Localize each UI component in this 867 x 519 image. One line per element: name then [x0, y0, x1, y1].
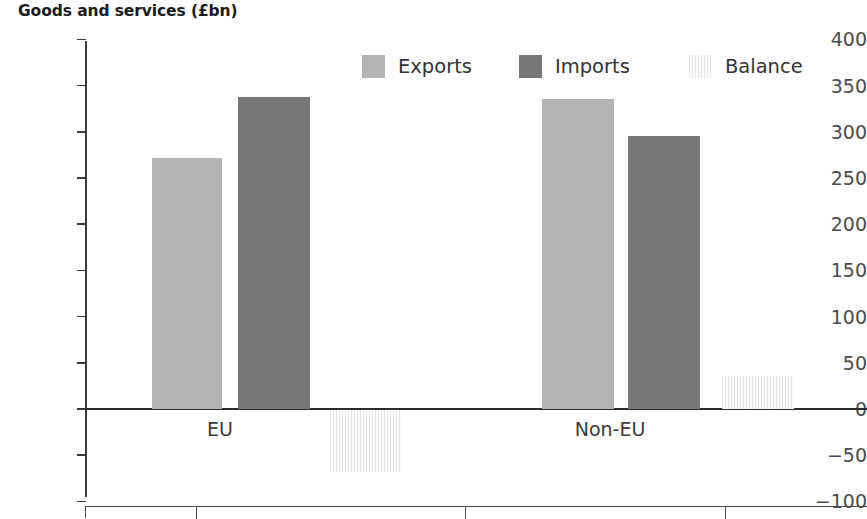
legend-label-exports: Exports	[398, 57, 472, 77]
category-label-eu: EU	[207, 420, 233, 439]
y-axis-tick-label: 200	[801, 215, 867, 234]
chart-legend: Exports Imports Balance	[362, 55, 803, 78]
legend-label-balance: Balance	[725, 57, 803, 77]
table-column-divider	[196, 507, 197, 519]
y-axis-tick-label: 100	[801, 307, 867, 326]
legend-item-exports: Exports	[362, 55, 472, 78]
y-axis-tick-label: 150	[801, 261, 867, 280]
legend-item-imports: Imports	[519, 55, 630, 78]
category-label-non-eu: Non-EU	[575, 420, 646, 439]
y-axis-tick	[77, 501, 86, 503]
bar-eu-balance	[330, 411, 402, 472]
y-axis-tick-label: 50	[801, 353, 867, 372]
legend-label-imports: Imports	[555, 57, 630, 77]
y-axis-line	[85, 41, 87, 497]
bar-non-eu-imports	[628, 136, 700, 409]
y-axis-tick-label: 300	[801, 122, 867, 141]
bar-eu-exports	[152, 158, 222, 409]
table-column-divider	[725, 507, 726, 519]
y-axis-tick-label: 400	[801, 30, 867, 49]
legend-swatch-balance-icon	[689, 55, 712, 78]
bar-non-eu-balance	[722, 376, 794, 409]
table-column-divider	[465, 507, 466, 519]
y-axis-tick	[77, 39, 86, 41]
bar-non-eu-exports	[542, 99, 614, 409]
table-fragment	[85, 506, 867, 518]
bar-eu-imports	[238, 97, 310, 409]
legend-swatch-exports-icon	[362, 55, 385, 78]
y-axis-tick-label: 350	[801, 76, 867, 95]
legend-item-balance: Balance	[689, 55, 803, 78]
y-axis-tick-label: −50	[801, 446, 867, 465]
legend-swatch-imports-icon	[519, 55, 542, 78]
y-axis-tick-label: 250	[801, 169, 867, 188]
